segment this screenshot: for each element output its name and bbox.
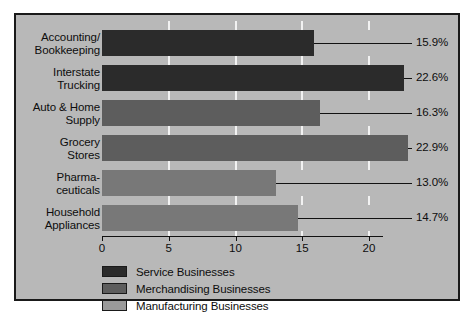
- category-label-line1: Accounting/: [16, 31, 100, 44]
- category-label: GroceryStores: [16, 136, 102, 161]
- category-label-line1: Interstate: [16, 66, 100, 79]
- gridline: [235, 161, 237, 170]
- gridline: [368, 21, 370, 30]
- legend-swatch: [102, 266, 127, 277]
- legend-item: Service Businesses: [102, 264, 270, 279]
- gridline: [168, 56, 170, 65]
- legend-item: Manufacturing Businesses: [102, 298, 270, 313]
- data-label: 15.9%: [416, 36, 448, 48]
- category-label-line2: Appliances: [16, 219, 100, 232]
- axis-tick-label: 10: [221, 242, 251, 254]
- x-axis-line: [102, 236, 383, 237]
- bar: [102, 30, 314, 56]
- data-label: 13.0%: [416, 176, 448, 188]
- gridline: [235, 126, 237, 135]
- legend-swatch: [102, 283, 127, 294]
- chart-figure: Accounting/Bookkeeping15.9%InterstateTru…: [14, 13, 460, 301]
- category-label-text: Auto & HomeSupply: [16, 101, 100, 126]
- category-label: Auto & HomeSupply: [16, 101, 102, 126]
- gridline: [168, 21, 170, 30]
- axis-tick-label: 0: [87, 242, 117, 254]
- leader-line: [404, 78, 412, 79]
- leader-line: [314, 43, 412, 44]
- gridline: [301, 56, 303, 65]
- gridline: [235, 196, 237, 205]
- category-label: Pharma-ceuticals: [16, 171, 102, 196]
- data-label: 16.3%: [416, 106, 448, 118]
- bar: [102, 65, 404, 91]
- gridline: [368, 161, 370, 170]
- axis-tick-label: 15: [287, 242, 317, 254]
- category-label-line2: Stores: [16, 149, 100, 162]
- category-label-line2: ceuticals: [16, 184, 100, 197]
- category-label-line1: Auto & Home: [16, 101, 100, 114]
- bar: [102, 205, 298, 231]
- category-label-text: Pharma-ceuticals: [16, 171, 100, 196]
- axis-tick: [169, 237, 170, 241]
- gridline: [168, 126, 170, 135]
- category-label-line2: Trucking: [16, 79, 100, 92]
- category-label-line1: Household: [16, 206, 100, 219]
- category-label-line1: Grocery: [16, 136, 100, 149]
- gridline: [301, 21, 303, 30]
- leader-line: [408, 148, 412, 149]
- category-label: HouseholdAppliances: [16, 206, 102, 231]
- gridline: [168, 196, 170, 205]
- category-label-text: InterstateTrucking: [16, 66, 100, 91]
- gridline: [168, 91, 170, 100]
- category-label-text: Accounting/Bookkeeping: [16, 31, 100, 56]
- gridline: [301, 196, 303, 205]
- leader-line: [320, 113, 412, 114]
- axis-tick-label: 5: [154, 242, 184, 254]
- axis-tick: [236, 237, 237, 241]
- category-label: InterstateTrucking: [16, 66, 102, 91]
- axis-tick-label: 20: [354, 242, 384, 254]
- gridline: [301, 161, 303, 170]
- data-label: 22.6%: [416, 71, 448, 83]
- category-label-line2: Bookkeeping: [16, 44, 100, 57]
- category-label-text: HouseholdAppliances: [16, 206, 100, 231]
- gridline: [235, 21, 237, 30]
- axis-tick: [302, 237, 303, 241]
- gridline: [301, 91, 303, 100]
- legend-label: Service Businesses: [136, 266, 235, 278]
- gridline: [235, 56, 237, 65]
- category-label-line2: Supply: [16, 114, 100, 127]
- chart-legend: Service BusinessesMerchandising Business…: [102, 264, 270, 313]
- legend-item: Merchandising Businesses: [102, 281, 270, 296]
- gridline: [301, 126, 303, 135]
- bar: [102, 135, 408, 161]
- bar: [102, 170, 276, 196]
- plot-area: Accounting/Bookkeeping15.9%InterstateTru…: [16, 15, 458, 299]
- data-label: 14.7%: [416, 211, 448, 223]
- axis-tick: [102, 237, 103, 241]
- gridline: [168, 161, 170, 170]
- legend-swatch: [102, 300, 127, 311]
- gridline: [368, 91, 370, 100]
- leader-line: [276, 183, 412, 184]
- gridline: [368, 196, 370, 205]
- leader-line: [298, 218, 412, 219]
- category-label: Accounting/Bookkeeping: [16, 31, 102, 56]
- data-label: 22.9%: [416, 141, 448, 153]
- gridline: [368, 126, 370, 135]
- category-label-line1: Pharma-: [16, 171, 100, 184]
- legend-label: Merchandising Businesses: [136, 283, 270, 295]
- gridline: [368, 56, 370, 65]
- category-label-text: GroceryStores: [16, 136, 100, 161]
- axis-tick: [369, 237, 370, 241]
- bar: [102, 100, 320, 126]
- gridline: [235, 91, 237, 100]
- legend-label: Manufacturing Businesses: [136, 300, 268, 312]
